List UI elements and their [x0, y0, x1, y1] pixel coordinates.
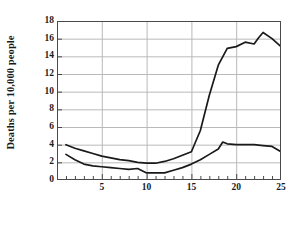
- x-tick-label-5: 5: [99, 183, 104, 193]
- gridlines: [57, 21, 281, 180]
- series-line-lower-curve: [66, 142, 281, 173]
- x-tick-label-25: 25: [276, 183, 286, 193]
- plot-area: [57, 21, 281, 180]
- series-line-upper-curve: [66, 32, 281, 163]
- chart-figure: Deaths per 10,000 people 024681012141618…: [0, 0, 298, 229]
- x-tick-label-20: 20: [231, 183, 241, 193]
- plot-frame: [58, 22, 281, 180]
- chart-canvas: [57, 21, 281, 180]
- data-series-layer: [66, 32, 281, 172]
- x-tick-label-15: 15: [187, 183, 197, 193]
- x-tick-label-10: 10: [142, 183, 152, 193]
